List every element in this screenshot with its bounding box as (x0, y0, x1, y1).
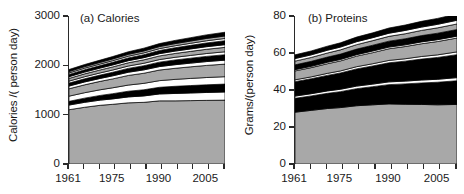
y-tick-mark (289, 126, 294, 127)
panel-proteins: Grams/(person day) (b) Proteins 80604020… (232, 0, 464, 194)
x-tick-label: 1961 (274, 173, 314, 185)
x-tick-label: 1975 (319, 173, 359, 185)
y-tick-label: 20 (240, 121, 286, 133)
x-tick-mark (114, 164, 115, 169)
x-tick-label: 1975 (92, 173, 132, 185)
y-tick-mark (63, 15, 68, 16)
x-tick-mark (326, 164, 327, 169)
x-tick-mark (130, 164, 131, 169)
x-tick-mark (374, 164, 375, 169)
x-tick-mark (67, 164, 68, 169)
y-tick-label: 3000 (14, 10, 60, 22)
area-band (69, 100, 225, 164)
x-tick-label: 1990 (138, 173, 178, 185)
plot-area-proteins (294, 16, 456, 164)
x-tick-mark (99, 164, 100, 169)
y-axis-label-calories: Calories /( person day) (7, 10, 19, 160)
x-tick-mark (192, 164, 193, 169)
plot-area-calories (68, 16, 224, 164)
x-tick-mark (439, 164, 440, 169)
stacked-area-calories (69, 16, 225, 164)
y-tick-mark (289, 89, 294, 90)
x-tick-mark (358, 164, 359, 169)
x-tick-mark (161, 164, 162, 169)
y-tick-label: 80 (240, 10, 286, 22)
x-tick-label: 1961 (48, 173, 88, 185)
x-tick-mark (223, 164, 224, 169)
x-tick-mark (407, 164, 408, 169)
x-tick-label: 2005 (417, 173, 457, 185)
x-tick-mark (310, 164, 311, 169)
y-tick-label: 0 (14, 158, 60, 170)
y-tick-mark (289, 15, 294, 16)
y-tick-mark (289, 52, 294, 53)
y-tick-mark (63, 65, 68, 66)
x-tick-mark (391, 164, 392, 169)
x-tick-label: 1990 (368, 173, 408, 185)
panel-calories: Calories /( person day) (a) Calories 300… (0, 0, 232, 194)
x-tick-label: 2005 (185, 173, 225, 185)
x-tick-mark (208, 164, 209, 169)
x-tick-mark (455, 164, 456, 169)
x-tick-mark (423, 164, 424, 169)
area-band (295, 104, 457, 164)
x-tick-mark (145, 164, 146, 169)
y-tick-label: 60 (240, 47, 286, 59)
y-tick-label: 0 (240, 158, 286, 170)
x-tick-mark (293, 164, 294, 169)
figure-root: Calories /( person day) (a) Calories 300… (0, 0, 464, 194)
y-tick-label: 1000 (14, 109, 60, 121)
y-tick-label: 40 (240, 84, 286, 96)
y-tick-mark (63, 114, 68, 115)
x-tick-mark (177, 164, 178, 169)
x-tick-mark (342, 164, 343, 169)
x-tick-mark (83, 164, 84, 169)
y-tick-label: 2000 (14, 59, 60, 71)
stacked-area-proteins (295, 16, 457, 164)
